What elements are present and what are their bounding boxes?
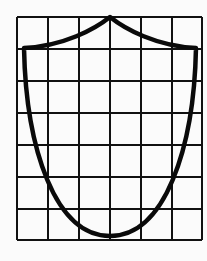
grid [17,17,202,240]
shield-grid-figure [0,0,207,261]
diagram-canvas [0,0,207,261]
